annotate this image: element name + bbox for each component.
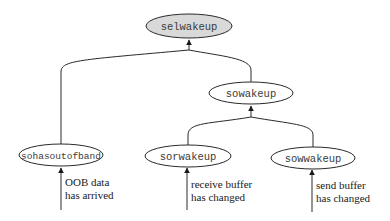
trigger-label-oob-line2: has arrived	[65, 189, 114, 201]
node-sohasoutofband: sohasoutofband	[19, 144, 103, 166]
trigger-label-receive-line1: receive buffer	[191, 178, 253, 190]
trigger-label-oob-line1: OOB data	[65, 176, 109, 188]
node-sohasoutofband-label: sohasoutofband	[21, 151, 101, 162]
node-selwakeup: selwakeup	[146, 14, 232, 38]
node-sowwakeup: sowwakeup	[271, 147, 355, 169]
trigger-label-receive-line2: has changed	[191, 191, 246, 203]
call-graph-diagram: selwakeup sowakeup sohasoutofband sorwak…	[0, 0, 390, 221]
edge-sowakeup-to-selwakeup	[189, 50, 251, 82]
node-sorwakeup-label: sorwakeup	[160, 151, 217, 163]
edge-sohasoutofband-to-selwakeup	[61, 40, 189, 144]
trigger-label-send-line1: send buffer	[316, 179, 366, 191]
node-sowakeup-label: sowakeup	[226, 88, 276, 100]
edge-sorwakeup-to-sowakeup	[188, 106, 251, 145]
node-sowakeup: sowakeup	[209, 82, 293, 104]
trigger-label-send-line2: has changed	[316, 192, 371, 204]
edge-sowwakeup-to-sowakeup	[251, 117, 313, 147]
node-selwakeup-label: selwakeup	[161, 21, 218, 33]
node-sowwakeup-label: sowwakeup	[285, 153, 342, 165]
node-sorwakeup: sorwakeup	[145, 145, 231, 167]
